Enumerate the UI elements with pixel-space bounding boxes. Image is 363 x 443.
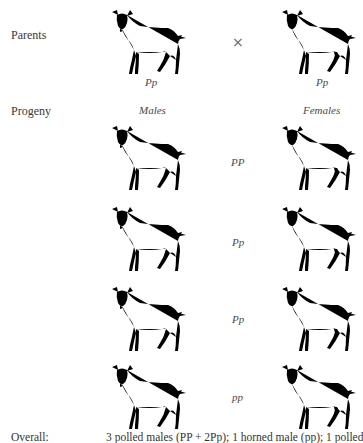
males-column-header: Males <box>139 104 166 116</box>
progeny-genotype-2: Pp <box>232 236 244 248</box>
progeny-genotype-4: pp <box>232 391 243 403</box>
parents-row-label: Parents <box>11 28 46 43</box>
progeny-genotype-1: PP <box>231 156 244 168</box>
goat-female-polled-icon <box>278 203 360 273</box>
females-column-header: Females <box>303 104 340 116</box>
progeny-genotype-3: Pp <box>232 313 244 325</box>
goat-male-polled-icon <box>108 203 190 273</box>
goat-female-horned-icon <box>278 361 360 431</box>
overall-summary: 3 polled males (PP + 2Pp); 1 horned male… <box>106 431 363 443</box>
goat-male-polled-icon <box>108 283 190 353</box>
goat-female-polled-icon <box>278 122 360 192</box>
goat-male-polled-icon <box>108 122 190 192</box>
cross-symbol: × <box>232 34 244 50</box>
progeny-row-label: Progeny <box>11 104 51 119</box>
parent-male-genotype: Pp <box>145 76 157 88</box>
goat-male-horned-icon <box>108 361 190 431</box>
overall-label: Overall: <box>11 431 49 443</box>
goat-female-polled-icon <box>278 6 360 76</box>
parent-female-genotype: Pp <box>316 76 328 88</box>
goat-male-polled-icon <box>108 6 190 76</box>
goat-female-polled-icon <box>278 283 360 353</box>
